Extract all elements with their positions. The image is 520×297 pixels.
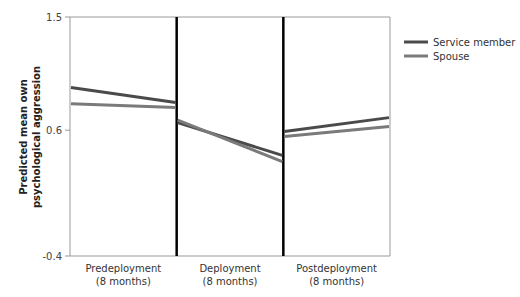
y-axis-label-line2: psychological aggression	[31, 66, 42, 208]
x-category-label: Postdeployment	[296, 263, 377, 274]
legend-spouse: Spouse	[433, 51, 470, 62]
y-tick-label: 1.5	[46, 12, 62, 23]
series-line-service-member	[71, 87, 176, 102]
legend: Service member Spouse	[404, 37, 516, 62]
y-axis-label-line1: Predicted mean own	[18, 79, 29, 195]
legend-service-member: Service member	[433, 37, 516, 48]
series-line-spouse	[178, 120, 283, 162]
x-category-sublabel: (8 months)	[202, 276, 257, 287]
series-line-spouse	[71, 104, 176, 108]
x-category-sublabel: (8 months)	[96, 276, 151, 287]
x-category-label: Predeployment	[85, 263, 161, 274]
y-tick-label: -0.4	[42, 251, 62, 262]
x-category-sublabel: (8 months)	[309, 276, 364, 287]
y-tick-label: 0.6	[46, 125, 62, 136]
line-chart: 1.50.6-0.4Predeployment(8 months)Deploym…	[0, 0, 520, 297]
x-category-label: Deployment	[199, 263, 260, 274]
plot-area: 1.50.6-0.4Predeployment(8 months)Deploym…	[42, 12, 390, 288]
